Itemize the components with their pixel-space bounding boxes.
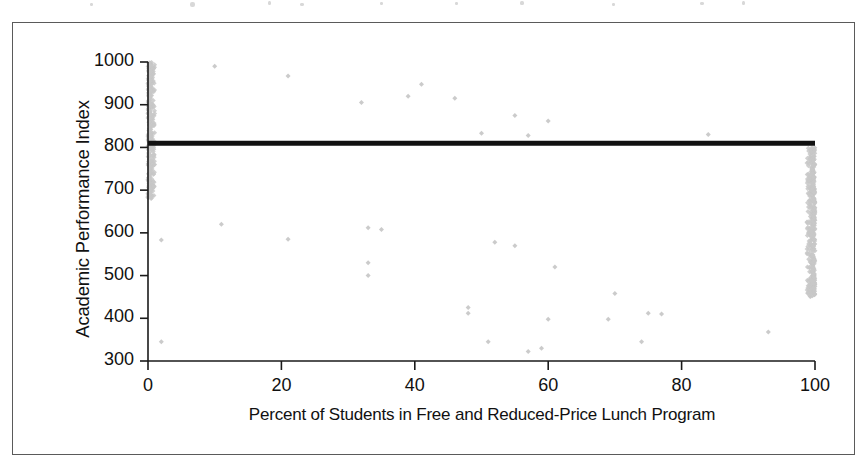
scatter-point [286,237,291,242]
y-axis-tick-label: 700 [64,178,134,199]
scatter-point-group [146,60,818,354]
scatter-point [286,74,291,79]
scatter-point [539,346,544,351]
scatter-point [419,82,424,87]
y-axis-tick-label: 800 [64,135,134,156]
scatter-point [646,311,651,316]
y-axis-tick-label: 1000 [64,50,134,71]
x-axis-tick-label: 80 [647,375,717,396]
scatter-point [526,349,531,354]
axis-group [140,62,815,370]
scatter-point [486,339,491,344]
scatter-point [552,265,557,270]
scatter-point [466,311,471,316]
y-axis-tick-label: 300 [64,349,134,370]
scatter-point [512,243,517,248]
scatter-point [159,238,164,243]
y-axis-tick-label: 900 [64,93,134,114]
scatter-point [706,132,711,137]
scatter-point [452,96,457,101]
scatter-point [546,317,551,322]
scatter-point [466,305,471,310]
scatter-point [639,339,644,344]
scatter-point [492,240,497,245]
x-axis-tick-label: 40 [380,375,450,396]
scatter-point [366,273,371,278]
x-axis-tick-label: 0 [113,375,183,396]
scatter-point [366,260,371,265]
y-axis-tick-label: 400 [64,306,134,327]
scatter-point [212,64,217,69]
x-axis-tick-label: 100 [780,375,850,396]
y-axis-tick-label: 500 [64,264,134,285]
scatter-point [359,100,364,105]
scatter-point [612,291,617,296]
scatter-point [219,222,224,227]
scatter-point [766,329,771,334]
scatter-point [606,317,611,322]
scatter-point [159,339,164,344]
scatter-point [379,227,384,232]
scatter-point [512,113,517,118]
scatter-point [406,94,411,99]
scatter-point [659,312,664,317]
scatter-point [366,225,371,230]
scatter-point [546,118,551,123]
y-axis-tick-label: 600 [64,221,134,242]
x-axis-title: Percent of Students in Free and Reduced-… [148,405,816,425]
x-axis-tick-label: 20 [246,375,316,396]
scatter-point [526,133,531,138]
scatter-plot-figure: Academic Performance Index Percent of St… [0,0,867,471]
x-axis-tick-label: 60 [513,375,583,396]
scatter-point [479,131,484,136]
